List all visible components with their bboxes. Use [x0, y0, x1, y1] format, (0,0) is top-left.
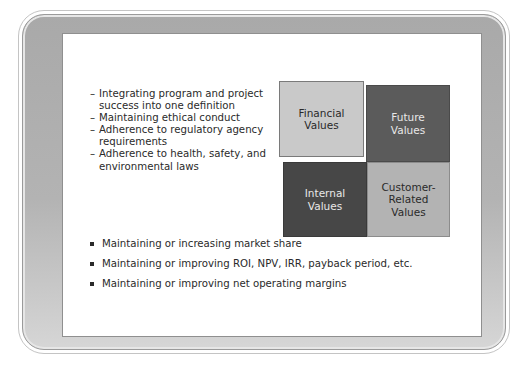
dash-list: Integrating program and project success … [90, 88, 300, 173]
internal-values-label: Internal Values [300, 187, 350, 212]
future-values-label: Future Values [383, 111, 433, 136]
bullet-item: Maintaining or increasing market share [87, 238, 413, 258]
customer-related-values-label: Customer-Related Values [378, 181, 440, 219]
financial-values-box: Financial Values [279, 81, 364, 157]
bullet-list: Maintaining or increasing market share M… [87, 238, 413, 298]
bullet-item: Maintaining or improving ROI, NPV, IRR, … [87, 258, 413, 278]
future-values-box: Future Values [366, 85, 450, 162]
dash-item: Integrating program and project success … [90, 88, 300, 112]
customer-related-values-box: Customer-Related Values [367, 162, 450, 237]
dash-item: Adherence to health, safety, and environ… [90, 148, 300, 172]
bullet-item: Maintaining or improving net operating m… [87, 278, 413, 298]
dash-item: Maintaining ethical conduct [90, 112, 300, 124]
dash-item: Adherence to regulatory agency requireme… [90, 124, 300, 148]
financial-values-label: Financial Values [292, 107, 352, 132]
internal-values-box: Internal Values [283, 162, 367, 237]
